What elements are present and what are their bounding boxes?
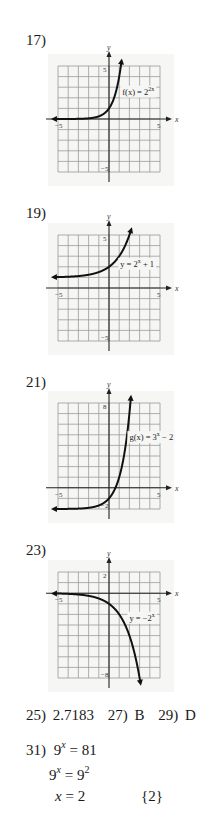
x-min-tick: −5 bbox=[55, 122, 63, 130]
graph-background bbox=[48, 223, 174, 355]
graph-problem-17: xy−555−5f(x) = 22x bbox=[40, 44, 180, 189]
x-max-tick: 5 bbox=[157, 596, 161, 604]
y-bottom-tick: −8 bbox=[101, 671, 109, 679]
eq2-rhs-base: = 9 bbox=[61, 767, 84, 783]
short-answers-row: 25) 2.7183 27) B 29) D bbox=[26, 707, 196, 723]
problem-31-line-1: 31) 9x = 81 bbox=[26, 738, 97, 758]
graph-problem-21: xy−558−2g(x) = 3x − 2 bbox=[40, 381, 180, 526]
x-max-tick: 5 bbox=[157, 291, 161, 299]
answer-27-value: B bbox=[135, 707, 145, 723]
eq2-base: 9 bbox=[49, 767, 57, 783]
x-axis-letter: x bbox=[174, 284, 179, 293]
solution-set: {2} bbox=[141, 788, 163, 804]
graph-19-svg: xy−555−5y = 2x + 1 bbox=[40, 213, 180, 358]
x-min-tick: −5 bbox=[55, 596, 63, 604]
eq2-exponent: x bbox=[57, 764, 61, 775]
y-top-tick: 5 bbox=[103, 235, 107, 243]
y-axis-letter: y bbox=[106, 213, 111, 221]
problem-31-label: 31) bbox=[26, 742, 46, 758]
eq1-exponent: x bbox=[61, 739, 65, 750]
problem-31-line-2: 9x = 92 bbox=[49, 763, 89, 783]
eq3-rhs: = 2 bbox=[62, 788, 85, 804]
x-min-tick: −5 bbox=[55, 291, 63, 299]
x-axis-letter: x bbox=[174, 115, 179, 124]
y-top-tick: 5 bbox=[103, 66, 107, 74]
function-label: y = 2x + 1 bbox=[120, 258, 154, 269]
eq2-rhs-exponent: 2 bbox=[84, 764, 89, 775]
y-axis-letter: y bbox=[106, 44, 111, 52]
y-axis-letter: y bbox=[106, 550, 111, 558]
graph-23-svg: xy−552−8y = −2x bbox=[40, 550, 180, 695]
graph-21-svg: xy−558−2g(x) = 3x − 2 bbox=[40, 381, 180, 526]
x-max-tick: 5 bbox=[157, 122, 161, 130]
answer-25-label: 25) bbox=[26, 707, 46, 723]
graph-background bbox=[48, 54, 174, 186]
y-axis-letter: y bbox=[106, 381, 111, 389]
x-axis-letter: x bbox=[174, 589, 179, 598]
eq3-variable: x bbox=[55, 788, 62, 804]
graph-background bbox=[48, 560, 174, 692]
function-label: g(x) = 3x − 2 bbox=[129, 431, 173, 442]
answer-29-value: D bbox=[185, 707, 196, 723]
graph-17-svg: xy−555−5f(x) = 22x bbox=[40, 44, 180, 189]
y-bottom-tick: −5 bbox=[101, 165, 109, 173]
graph-problem-23: xy−552−8y = −2x bbox=[40, 550, 180, 695]
graph-background bbox=[48, 391, 174, 523]
y-top-tick: 2 bbox=[103, 572, 107, 580]
eq1-rhs: = 81 bbox=[66, 742, 97, 758]
x-min-tick: −5 bbox=[55, 491, 63, 499]
problem-31-line-3: x = 2 bbox=[55, 788, 85, 804]
graph-problem-19: xy−555−5y = 2x + 1 bbox=[40, 213, 180, 358]
answer-29-label: 29) bbox=[158, 707, 178, 723]
equation-1: 9x = 81 bbox=[54, 742, 97, 758]
x-axis-letter: x bbox=[174, 484, 179, 493]
answer-25-value: 2.7183 bbox=[53, 707, 94, 723]
answer-27-label: 27) bbox=[108, 707, 128, 723]
function-label: y = −2x bbox=[129, 612, 154, 623]
y-bottom-tick: −5 bbox=[101, 334, 109, 342]
x-max-tick: 5 bbox=[157, 491, 161, 499]
y-top-tick: 8 bbox=[103, 403, 107, 411]
